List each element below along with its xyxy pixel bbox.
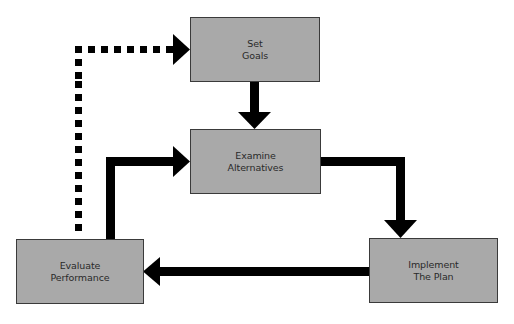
node-evaluate-performance: Evaluate Performance xyxy=(16,239,144,304)
node-label-line2: Goals xyxy=(242,50,268,62)
diagram-canvas: Set Goals Examine Alternatives Implement… xyxy=(0,0,514,324)
node-label-line2: The Plan xyxy=(413,271,453,283)
node-label-line1: Implement xyxy=(408,259,459,271)
arrow-evaluate-to-examine xyxy=(106,146,190,239)
node-label-line2: Alternatives xyxy=(228,162,284,174)
arrow-implement-to-evaluate xyxy=(143,257,369,286)
dotted-arrow-evaluate-to-set-goals xyxy=(75,34,190,231)
node-label-line1: Evaluate xyxy=(60,260,101,272)
node-examine-alternatives: Examine Alternatives xyxy=(190,129,321,194)
arrow-examine-to-implement xyxy=(321,157,417,238)
arrow-set-goals-to-examine xyxy=(238,82,271,129)
node-label-line1: Set xyxy=(247,38,262,50)
node-set-goals: Set Goals xyxy=(190,17,320,82)
node-implement-the-plan: Implement The Plan xyxy=(369,238,498,303)
node-label-line2: Performance xyxy=(50,272,109,284)
node-label-line1: Examine xyxy=(235,150,276,162)
